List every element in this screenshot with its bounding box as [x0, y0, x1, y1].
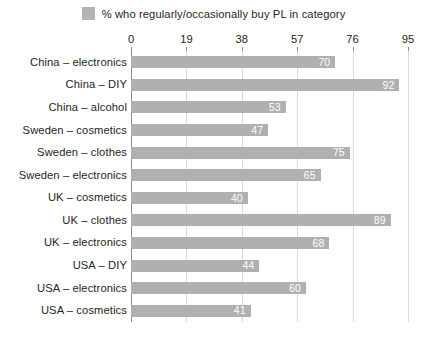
bar-value-label: 60: [289, 283, 301, 294]
bar-row: China – electronics70: [0, 51, 427, 74]
bar-value-label: 70: [318, 57, 330, 68]
bar-value-label: 47: [251, 125, 263, 136]
x-axis: 01938577695: [0, 33, 427, 47]
bar-value-label: 65: [304, 170, 316, 181]
bar: 75: [131, 147, 350, 159]
category-label: Sweden – cosmetics: [3, 124, 127, 136]
bar-row: UK – electronics68: [0, 232, 427, 255]
x-tick-label: 95: [402, 33, 414, 45]
category-label: China – alcohol: [3, 101, 127, 113]
bar-value-label: 89: [374, 215, 386, 226]
bar: 41: [131, 305, 251, 317]
bar-value-label: 40: [231, 193, 243, 204]
bar-value-label: 68: [313, 238, 325, 249]
bar: 92: [131, 79, 399, 91]
category-label: China – DIY: [3, 78, 127, 90]
bar: 40: [131, 192, 248, 204]
bar-value-label: 75: [333, 147, 345, 158]
bar: 68: [131, 237, 329, 249]
category-label: Sweden – clothes: [3, 146, 127, 158]
bar: 47: [131, 124, 268, 136]
legend-label: % who regularly/occasionally buy PL in c…: [102, 8, 346, 20]
bar: 60: [131, 282, 306, 294]
category-label: China – electronics: [3, 56, 127, 68]
bar-chart: % who regularly/occasionally buy PL in c…: [0, 0, 427, 340]
bar: 44: [131, 260, 259, 272]
bar-row: USA – electronics60: [0, 277, 427, 300]
category-label: UK – clothes: [3, 214, 127, 226]
bar-row: Sweden – electronics65: [0, 164, 427, 187]
bar: 53: [131, 101, 286, 113]
bar-value-label: 44: [243, 260, 255, 271]
bar-row: UK – cosmetics40: [0, 187, 427, 210]
bar: 89: [131, 214, 391, 226]
bar-row: UK – clothes89: [0, 209, 427, 232]
category-label: Sweden – electronics: [3, 169, 127, 181]
legend-swatch-icon: [82, 7, 95, 20]
bar-row: Sweden – cosmetics47: [0, 119, 427, 142]
category-label: USA – cosmetics: [3, 304, 127, 316]
bar-value-label: 92: [383, 80, 395, 91]
bar-value-label: 41: [234, 305, 246, 316]
bar-row: USA – cosmetics41: [0, 299, 427, 322]
bar-row: Sweden – clothes75: [0, 141, 427, 164]
category-label: USA – electronics: [3, 282, 127, 294]
bar-row: USA – DIY44: [0, 254, 427, 277]
x-tick-label: 38: [236, 33, 248, 45]
bar: 65: [131, 169, 321, 181]
category-label: UK – electronics: [3, 236, 127, 248]
bar-value-label: 53: [269, 102, 281, 113]
x-tick-label: 0: [128, 33, 134, 45]
category-label: USA – DIY: [3, 259, 127, 271]
bar-rows: China – electronics70China – DIY92China …: [0, 51, 427, 322]
x-tick-label: 19: [180, 33, 192, 45]
x-tick-label: 57: [291, 33, 303, 45]
bar-row: China – alcohol53: [0, 96, 427, 119]
category-label: UK – cosmetics: [3, 191, 127, 203]
chart-legend: % who regularly/occasionally buy PL in c…: [0, 7, 427, 20]
bar-row: China – DIY92: [0, 74, 427, 97]
x-tick-label: 76: [346, 33, 358, 45]
bar: 70: [131, 56, 335, 68]
